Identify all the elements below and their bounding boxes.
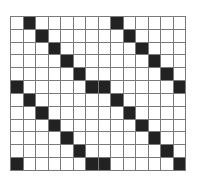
grid-cell-empty bbox=[173, 93, 186, 106]
grid-cell-filled bbox=[73, 144, 86, 157]
grid-cell-empty bbox=[98, 144, 111, 157]
grid-cell-empty bbox=[48, 106, 61, 119]
grid-cell-empty bbox=[135, 67, 148, 80]
grid-cell-empty bbox=[35, 131, 48, 144]
grid-cell-empty bbox=[85, 29, 98, 42]
grid-cell-empty bbox=[135, 29, 148, 42]
grid-cell-empty bbox=[23, 54, 36, 67]
grid-cell-empty bbox=[60, 144, 73, 157]
grid-cell-empty bbox=[98, 16, 111, 29]
grid-cell-empty bbox=[98, 106, 111, 119]
grid-cell-empty bbox=[48, 157, 61, 170]
grid-cell-empty bbox=[23, 67, 36, 80]
grid-cell-empty bbox=[48, 67, 61, 80]
grid-cell-empty bbox=[85, 106, 98, 119]
grid-cell-empty bbox=[23, 131, 36, 144]
grid-cell-empty bbox=[173, 54, 186, 67]
grid-cell-empty bbox=[73, 54, 86, 67]
grid-cell-filled bbox=[110, 93, 123, 106]
grid-cell-filled bbox=[173, 80, 186, 93]
grid-cell-empty bbox=[85, 16, 98, 29]
grid-cell-empty bbox=[60, 29, 73, 42]
grid-cell-empty bbox=[148, 144, 161, 157]
grid-cell-empty bbox=[35, 16, 48, 29]
grid-cell-empty bbox=[98, 29, 111, 42]
grid-cell-filled bbox=[173, 157, 186, 170]
grid-cell-empty bbox=[73, 93, 86, 106]
grid-cell-empty bbox=[73, 29, 86, 42]
grid-cell-empty bbox=[35, 80, 48, 93]
grid-cell-empty bbox=[48, 16, 61, 29]
grid-cell-filled bbox=[148, 131, 161, 144]
grid-cell-empty bbox=[10, 106, 23, 119]
grid-cell-empty bbox=[98, 93, 111, 106]
grid-cell-empty bbox=[160, 157, 173, 170]
grid-cell-empty bbox=[123, 131, 136, 144]
grid-cell-empty bbox=[48, 131, 61, 144]
grid-cell-empty bbox=[110, 119, 123, 132]
grid-cell-empty bbox=[73, 16, 86, 29]
grid-cell-empty bbox=[98, 42, 111, 55]
grid-cell-empty bbox=[148, 157, 161, 170]
grid-cell-empty bbox=[160, 119, 173, 132]
grid-cell-filled bbox=[123, 106, 136, 119]
grid-cell-empty bbox=[10, 42, 23, 55]
grid-cell-empty bbox=[98, 131, 111, 144]
grid-cell-empty bbox=[10, 93, 23, 106]
grid-cell-empty bbox=[60, 16, 73, 29]
grid-cell-empty bbox=[148, 16, 161, 29]
grid-cell-empty bbox=[173, 106, 186, 119]
grid-cell-empty bbox=[10, 131, 23, 144]
grid-cell-empty bbox=[60, 80, 73, 93]
grid-cell-empty bbox=[123, 144, 136, 157]
grid-cell-filled bbox=[160, 144, 173, 157]
grid-cell-empty bbox=[135, 54, 148, 67]
grid-cell-empty bbox=[73, 106, 86, 119]
grid-cell-filled bbox=[98, 157, 111, 170]
grid-cell-empty bbox=[110, 29, 123, 42]
grid-cell-empty bbox=[135, 144, 148, 157]
grid-cell-filled bbox=[73, 67, 86, 80]
grid-cell-empty bbox=[48, 144, 61, 157]
grid-cell-empty bbox=[123, 80, 136, 93]
grid-cell-empty bbox=[35, 54, 48, 67]
grid-cell-empty bbox=[123, 54, 136, 67]
grid-cell-filled bbox=[110, 16, 123, 29]
grid-cell-filled bbox=[35, 29, 48, 42]
grid-cell-filled bbox=[85, 80, 98, 93]
grid-cell-empty bbox=[160, 131, 173, 144]
grid-cell-empty bbox=[73, 80, 86, 93]
grid-cell-empty bbox=[160, 80, 173, 93]
grid-cell-empty bbox=[173, 16, 186, 29]
grid-cell-empty bbox=[60, 106, 73, 119]
grid-cell-empty bbox=[148, 119, 161, 132]
grid-cell-empty bbox=[98, 119, 111, 132]
grid-cell-empty bbox=[123, 93, 136, 106]
grid-cell-empty bbox=[10, 16, 23, 29]
grid-cell-empty bbox=[60, 119, 73, 132]
grid-cell-empty bbox=[35, 67, 48, 80]
grid-cell-empty bbox=[173, 131, 186, 144]
grid-cell-empty bbox=[110, 80, 123, 93]
grid-cell-empty bbox=[110, 157, 123, 170]
grid-cell-empty bbox=[110, 42, 123, 55]
grid-cell-empty bbox=[135, 157, 148, 170]
grid-cell-empty bbox=[23, 106, 36, 119]
grid-cell-empty bbox=[85, 131, 98, 144]
grid-cell-empty bbox=[10, 29, 23, 42]
grid-cell-empty bbox=[73, 119, 86, 132]
grid-cell-empty bbox=[98, 67, 111, 80]
grid-cell-empty bbox=[73, 131, 86, 144]
grid-cell-empty bbox=[173, 144, 186, 157]
grid-cell-empty bbox=[35, 119, 48, 132]
grid-cell-empty bbox=[148, 106, 161, 119]
grid-cell-filled bbox=[35, 106, 48, 119]
grid-cell-empty bbox=[173, 29, 186, 42]
grid-cell-empty bbox=[110, 131, 123, 144]
grid-cell-filled bbox=[48, 42, 61, 55]
grid-cell-empty bbox=[160, 93, 173, 106]
grid-cell-empty bbox=[85, 67, 98, 80]
grid-cell-empty bbox=[98, 54, 111, 67]
grid-cell-empty bbox=[123, 157, 136, 170]
grid-cell-empty bbox=[173, 42, 186, 55]
